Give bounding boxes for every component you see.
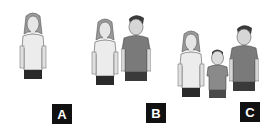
panel-a-woman [18, 12, 48, 82]
panel-label-b: B [146, 103, 166, 123]
panel-label-a: A [52, 104, 72, 124]
panel-c-man [229, 24, 259, 94]
panel-b-woman [90, 18, 120, 88]
panel-label-c: C [240, 102, 260, 122]
panel-b-man [121, 14, 151, 84]
panel-c-boy [205, 48, 230, 100]
panel-c-woman [176, 30, 206, 100]
